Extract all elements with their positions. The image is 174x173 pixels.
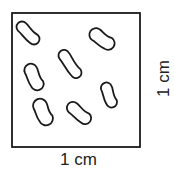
bacterium-cell <box>56 48 84 81</box>
bacterium-cell <box>99 81 119 109</box>
bacterium-cell <box>22 62 46 93</box>
side-dimension-label: 1 cm <box>155 59 172 99</box>
bottom-dimension-label: 1 cm <box>60 151 97 168</box>
square-outline <box>12 13 140 147</box>
bacterium-cell <box>14 19 42 47</box>
cells-group <box>14 19 119 128</box>
bacterium-cell <box>64 99 93 127</box>
square-diagram <box>0 0 174 173</box>
bacterium-cell <box>30 96 55 128</box>
bacterium-cell <box>87 26 118 53</box>
